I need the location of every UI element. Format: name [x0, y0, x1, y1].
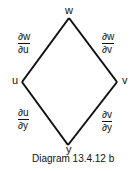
fraction-numerator: ∂v — [102, 110, 112, 122]
fraction-denominator: ∂y — [18, 120, 29, 131]
fraction-denominator: ∂v — [102, 44, 114, 55]
partial-w-v-label: ∂w ∂v — [102, 32, 114, 55]
partial-v-y-label: ∂v ∂y — [102, 110, 112, 133]
fraction-numerator: ∂u — [18, 108, 29, 120]
node-w: w — [65, 5, 73, 16]
fraction-denominator: ∂u — [18, 44, 30, 55]
fraction-denominator: ∂y — [102, 122, 112, 133]
partial-u-y-label: ∂u ∂y — [18, 108, 29, 131]
fraction-numerator: ∂w — [102, 32, 114, 44]
node-u: u — [12, 75, 18, 86]
partial-w-u-label: ∂w ∂u — [18, 32, 30, 55]
node-v: v — [122, 75, 128, 86]
diagram-caption: Diagram 13.4.12 b — [32, 153, 114, 164]
fraction-numerator: ∂w — [18, 32, 30, 44]
edge-u-y — [22, 82, 68, 145]
